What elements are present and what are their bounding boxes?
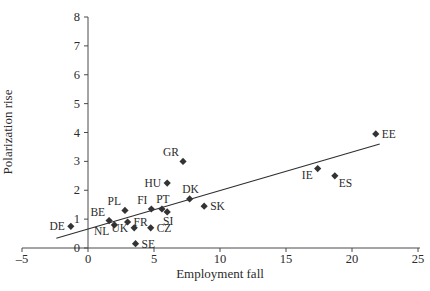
point-label-es: ES	[339, 177, 352, 189]
data-point-ie	[314, 165, 321, 172]
data-point-cz	[147, 224, 154, 231]
data-point-dk	[186, 195, 193, 202]
scatter-plot-figure: –50510152025012345678DEBENLPLFRUKSECZFIP…	[0, 0, 430, 291]
data-point-gr	[179, 158, 186, 165]
scatter-chart: –50510152025012345678DEBENLPLFRUKSECZFIP…	[0, 0, 430, 291]
y-tick-label: 4	[74, 126, 81, 140]
point-label-sk: SK	[210, 200, 225, 212]
point-label-si: SI	[163, 215, 173, 227]
point-label-ee: EE	[382, 128, 396, 140]
x-tick-label: 20	[346, 252, 359, 266]
point-label-se: SE	[142, 238, 155, 250]
x-tick-label: 5	[151, 252, 157, 266]
point-label-be: BE	[90, 206, 105, 218]
y-tick-label: 1	[74, 212, 80, 226]
y-axis-title: Polarization rise	[0, 89, 15, 174]
x-tick-label: 15	[280, 252, 293, 266]
y-tick-label: 3	[74, 154, 80, 168]
point-label-pt: PT	[156, 193, 169, 205]
y-tick-label: 2	[74, 183, 80, 197]
y-tick-label: 6	[74, 68, 80, 82]
data-point-se	[132, 240, 139, 247]
data-point-sk	[201, 203, 208, 210]
y-tick-label: 8	[74, 10, 80, 24]
y-tick-label: 0	[74, 241, 80, 255]
point-label-uk: UK	[112, 222, 129, 234]
point-label-de: DE	[49, 220, 64, 232]
x-tick-label: 10	[214, 252, 227, 266]
x-tick-label: –5	[15, 252, 29, 266]
data-point-ee	[372, 130, 379, 137]
point-label-hu: HU	[145, 177, 162, 189]
x-tick-label: 0	[85, 252, 91, 266]
data-point-es	[331, 172, 338, 179]
y-tick-label: 7	[74, 39, 80, 53]
data-point-pl	[121, 207, 128, 214]
x-tick-label: 25	[412, 252, 425, 266]
y-tick-label: 5	[74, 97, 80, 111]
point-label-nl: NL	[94, 225, 109, 237]
point-label-pl: PL	[108, 195, 121, 207]
point-label-gr: GR	[163, 146, 179, 158]
point-label-ie: IE	[302, 169, 313, 181]
point-label-dk: DK	[182, 183, 199, 195]
data-point-hu	[164, 179, 171, 186]
x-axis-title: Employment fall	[176, 266, 264, 281]
point-label-fi: FI	[137, 194, 147, 206]
